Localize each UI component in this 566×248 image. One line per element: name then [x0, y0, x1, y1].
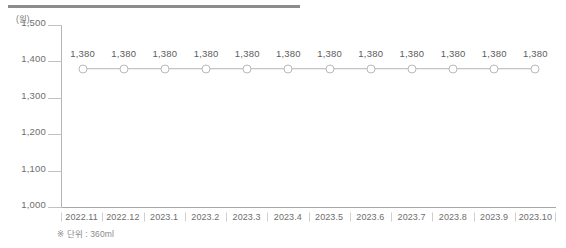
y-axis-tick: 1,100 — [0, 171, 62, 172]
y-axis-tick-label: 1,200 — [21, 126, 46, 137]
y-axis-tick-label: 1,400 — [21, 53, 46, 64]
data-point[interactable]: 1,380 — [407, 64, 416, 73]
x-axis-category-label: 2023.6 — [350, 212, 391, 222]
data-point[interactable]: 1,380 — [531, 64, 540, 73]
data-point-marker[interactable] — [243, 64, 252, 73]
x-axis-category-label: 2023.8 — [432, 212, 473, 222]
data-point-marker[interactable] — [490, 64, 499, 73]
data-point-label: 1,380 — [111, 47, 136, 58]
x-axis-category-label: 2023.1 — [144, 212, 185, 222]
y-axis-tick: 1,300 — [0, 98, 62, 99]
y-axis-tick-mark — [48, 207, 62, 208]
y-axis-tick: 1,200 — [0, 134, 62, 135]
y-axis-tick-mark — [48, 61, 62, 62]
chart-screenshot: (원) 1,5001,4001,3001,2001,1001,000 1,380… — [0, 0, 566, 248]
x-axis-labels: 2022.112022.122023.12023.22023.32023.420… — [61, 209, 556, 225]
data-point[interactable]: 1,380 — [490, 64, 499, 73]
x-axis-category-label: 2023.7 — [391, 212, 432, 222]
y-axis-tick: 1,400 — [0, 61, 62, 62]
data-point[interactable]: 1,380 — [202, 64, 211, 73]
data-point[interactable]: 1,380 — [243, 64, 252, 73]
data-point-marker[interactable] — [284, 64, 293, 73]
data-point-label: 1,380 — [441, 47, 466, 58]
data-point-label: 1,380 — [482, 47, 507, 58]
y-axis-tick-label: 1,500 — [21, 17, 46, 28]
y-axis-tick-label: 1,000 — [21, 199, 46, 210]
chart-footnote: ※ 단위 : 360ml — [57, 227, 114, 239]
y-axis-tick-mark — [48, 171, 62, 172]
data-point-marker[interactable] — [325, 64, 334, 73]
y-axis-tick: 1,500 — [0, 25, 62, 26]
data-point-label: 1,380 — [358, 47, 383, 58]
plot-area: 1,3801,3801,3801,3801,3801,3801,3801,380… — [62, 25, 556, 207]
y-axis-tick-label: 1,100 — [21, 163, 46, 174]
data-point[interactable]: 1,380 — [78, 64, 87, 73]
y-axis-tick: 1,000 — [0, 207, 62, 208]
data-point-label: 1,380 — [317, 47, 342, 58]
y-axis-tick-label: 1,300 — [21, 90, 46, 101]
x-axis-category-label: 2023.2 — [185, 212, 226, 222]
data-point-marker[interactable] — [119, 64, 128, 73]
data-point-label: 1,380 — [153, 47, 178, 58]
x-axis-category-label: 2023.10 — [515, 212, 556, 222]
x-axis-line — [61, 207, 556, 208]
data-point-marker[interactable] — [449, 64, 458, 73]
x-axis-category-label: 2022.12 — [102, 212, 143, 222]
x-axis-category-label: 2023.5 — [309, 212, 350, 222]
data-point-marker[interactable] — [407, 64, 416, 73]
data-point[interactable]: 1,380 — [366, 64, 375, 73]
y-axis-tick-mark — [48, 98, 62, 99]
data-point[interactable]: 1,380 — [160, 64, 169, 73]
data-point-label: 1,380 — [276, 47, 301, 58]
data-point-marker[interactable] — [531, 64, 540, 73]
data-point-label: 1,380 — [70, 47, 95, 58]
x-axis-category-label: 2023.4 — [267, 212, 308, 222]
data-point[interactable]: 1,380 — [325, 64, 334, 73]
y-axis-tick-mark — [48, 25, 62, 26]
x-axis-category-label: 2023.3 — [226, 212, 267, 222]
data-point-label: 1,380 — [235, 47, 260, 58]
data-point-label: 1,380 — [523, 47, 548, 58]
data-point-marker[interactable] — [78, 64, 87, 73]
data-point-marker[interactable] — [202, 64, 211, 73]
data-point-marker[interactable] — [160, 64, 169, 73]
data-point[interactable]: 1,380 — [284, 64, 293, 73]
y-axis-tick-mark — [48, 134, 62, 135]
top-divider-rule — [8, 5, 300, 8]
x-axis-category-label: 2023.9 — [474, 212, 515, 222]
data-point[interactable]: 1,380 — [119, 64, 128, 73]
data-point[interactable]: 1,380 — [449, 64, 458, 73]
data-point-marker[interactable] — [366, 64, 375, 73]
data-point-label: 1,380 — [194, 47, 219, 58]
data-point-label: 1,380 — [400, 47, 425, 58]
x-axis-category-label: 2022.11 — [61, 212, 102, 222]
